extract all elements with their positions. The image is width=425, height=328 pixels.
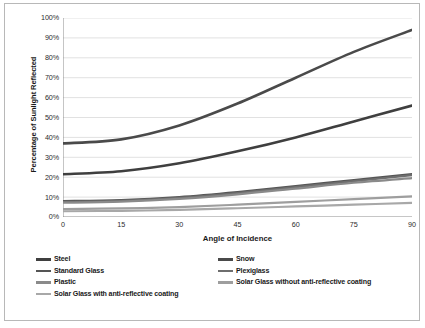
series-line-snow — [63, 30, 412, 143]
legend-label: Snow — [236, 256, 254, 263]
chart-container: Percentage of Sunlight Reflected 0%10%20… — [0, 0, 425, 328]
y-tick-label: 90% — [25, 34, 59, 41]
x-tick-label: 90 — [397, 221, 425, 228]
legend-item[interactable]: Solar Glass without anti-reflective coat… — [218, 279, 371, 286]
legend-color-swatch — [36, 258, 51, 261]
y-tick-label: 50% — [25, 114, 59, 121]
legend-label: Solar Glass without anti-reflective coat… — [236, 279, 371, 286]
plot-area — [63, 18, 412, 217]
legend-item[interactable]: Plexiglass — [218, 268, 269, 275]
y-tick-label: 80% — [25, 54, 59, 61]
chart-plot-svg — [63, 18, 412, 217]
y-tick-label: 10% — [25, 194, 59, 201]
y-tick-label: 0% — [25, 213, 59, 220]
y-tick-label: 20% — [25, 174, 59, 181]
chart-legend: SteelSnowStandard GlassPlexiglassPlastic… — [28, 256, 398, 308]
x-tick-label: 75 — [339, 221, 369, 228]
x-tick-label: 30 — [164, 221, 194, 228]
y-tick-label: 30% — [25, 154, 59, 161]
x-axis-title: Angle of Incidence — [63, 234, 412, 243]
legend-item[interactable]: Standard Glass — [36, 268, 104, 275]
legend-label: Plastic — [54, 279, 76, 286]
legend-item[interactable]: Solar Glass with anti-reflective coating — [36, 291, 178, 298]
x-tick-label: 0 — [48, 221, 78, 228]
legend-label: Standard Glass — [54, 268, 104, 275]
x-tick-label: 45 — [223, 221, 253, 228]
legend-color-swatch — [218, 281, 233, 284]
legend-color-swatch — [36, 293, 51, 296]
legend-item[interactable]: Plastic — [36, 279, 76, 286]
y-axis-tick-labels: 0%10%20%30%40%50%60%70%80%90%100% — [21, 18, 59, 217]
legend-color-swatch — [36, 281, 51, 284]
legend-color-swatch — [218, 270, 233, 273]
x-tick-label: 15 — [106, 221, 136, 228]
legend-color-swatch — [36, 270, 51, 273]
legend-color-swatch — [218, 258, 233, 261]
x-tick-label: 60 — [281, 221, 311, 228]
legend-label: Steel — [54, 256, 70, 263]
y-tick-label: 60% — [25, 94, 59, 101]
legend-label: Plexiglass — [236, 268, 269, 275]
legend-label: Solar Glass with anti-reflective coating — [54, 291, 178, 298]
x-axis-tick-labels: 0153045607590 — [63, 221, 412, 233]
y-tick-label: 40% — [25, 134, 59, 141]
y-tick-label: 100% — [25, 14, 59, 21]
legend-item[interactable]: Snow — [218, 256, 254, 263]
y-tick-label: 70% — [25, 74, 59, 81]
legend-item[interactable]: Steel — [36, 256, 70, 263]
